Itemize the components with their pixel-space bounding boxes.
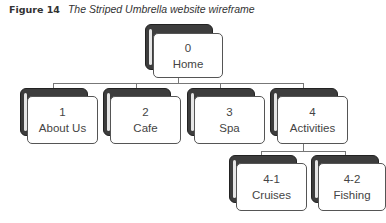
connector-level2-bar	[261, 151, 345, 152]
node-label: Activities	[290, 120, 335, 136]
node-label: Spa	[219, 120, 239, 136]
node-id: 1	[59, 104, 65, 120]
node-id: 4-1	[263, 171, 280, 187]
connector-level1-bar	[53, 83, 304, 84]
node-label: Home	[173, 56, 204, 72]
node-id: 2	[142, 104, 148, 120]
node-label: Fishing	[333, 187, 370, 203]
node-id: 4-2	[344, 171, 361, 187]
node-id: 4	[309, 104, 315, 120]
connector-activities-down	[303, 143, 304, 151]
figure-title: The Striped Umbrella website wireframe	[68, 3, 255, 15]
node-id: 3	[226, 104, 232, 120]
node-label: About Us	[39, 120, 86, 136]
node-label: Cafe	[133, 120, 157, 136]
node-id: 0	[185, 40, 191, 56]
node-label: Cruises	[252, 187, 291, 203]
figure-caption: Figure 14 The Striped Umbrella website w…	[9, 3, 255, 15]
figure-number: Figure 14	[9, 4, 60, 15]
